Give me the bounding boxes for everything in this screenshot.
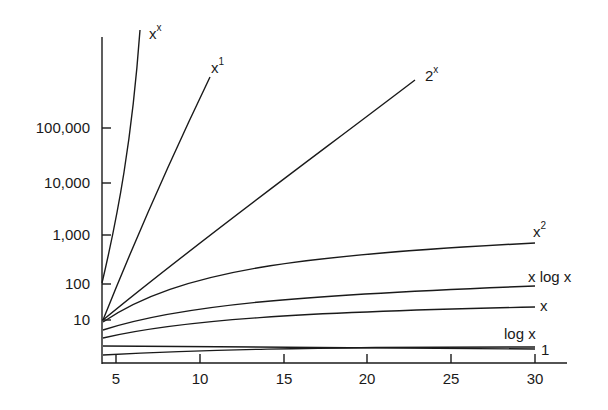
x-tick-label-30: 30 [520, 370, 550, 387]
complexity-chart [0, 0, 608, 410]
y-tick-label-100: 100 [0, 275, 90, 292]
y-tick-label-100000: 100,000 [0, 119, 90, 136]
label-x-pow-1: x1 [211, 58, 224, 76]
curve-2-pow-x [103, 80, 415, 320]
label-sup: 2 [541, 220, 547, 231]
label-base: x [211, 59, 219, 76]
label-constant-1: 1 [541, 341, 549, 358]
label-x-log-x: x log x [528, 268, 571, 285]
label-sup: x [433, 64, 438, 75]
label-x-pow-x: xx [149, 24, 162, 42]
curve-x [103, 307, 535, 338]
x-tick-label-25: 25 [436, 370, 466, 387]
x-tick-label-5: 5 [101, 370, 131, 387]
x-tick-label-15: 15 [269, 370, 299, 387]
label-sup: 1 [219, 56, 225, 67]
label-sup: x [157, 22, 162, 33]
y-tick-label-10000: 10,000 [0, 174, 90, 191]
label-x-squared: x2 [533, 222, 546, 240]
label-base: x [533, 223, 541, 240]
y-tick-label-1000: 1,000 [0, 226, 90, 243]
label-x: x [540, 297, 548, 314]
y-tick-label-10: 10 [0, 311, 90, 328]
label-base: x [149, 25, 157, 42]
label-log-x: log x [504, 325, 536, 342]
x-tick-label-20: 20 [352, 370, 382, 387]
x-tick-label-10: 10 [185, 370, 215, 387]
label-2-pow-x: 2x [425, 66, 438, 84]
curve-x-squared [103, 243, 535, 322]
